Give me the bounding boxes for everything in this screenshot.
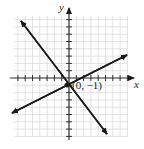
coordinate-plane [0,0,144,149]
x-axis-label: x [134,78,139,90]
intercept-point [65,83,70,88]
point-label: (0, −1) [72,79,102,91]
y-axis-label: y [59,1,64,13]
